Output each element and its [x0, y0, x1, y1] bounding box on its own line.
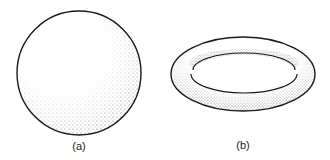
- figure-label-b: (b): [236, 139, 249, 151]
- diagram-canvas: [0, 0, 330, 160]
- sphere-figure: [17, 11, 141, 135]
- figure-label-a: (a): [72, 140, 85, 152]
- torus-figure: [165, 30, 330, 120]
